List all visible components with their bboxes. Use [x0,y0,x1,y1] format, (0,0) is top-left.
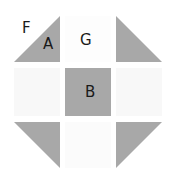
label-g: G [80,33,92,48]
light-patch-right [116,68,162,116]
corner-triangle-bottom-left [14,122,60,168]
label-b: B [85,85,95,100]
label-f: F [22,21,31,36]
label-a: A [43,37,53,52]
corner-triangle-top-right [116,16,162,62]
light-patch-left [14,68,60,116]
shoo-fly-quilt-diagram: F A G B [0,0,173,183]
light-patch-bottom [65,122,111,168]
corner-triangle-bottom-right [116,122,162,168]
